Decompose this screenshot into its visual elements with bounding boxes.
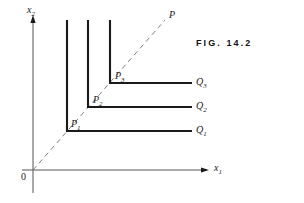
point-label-p3: P3	[115, 71, 125, 84]
origin-label: 0	[21, 172, 26, 182]
figure-14-2: x2 x1 0 P P1 P2 P3 Q1 Q2 Q3 FIG. 14.2	[0, 0, 304, 203]
endpoint-label-q3: Q3	[196, 77, 207, 90]
axis-label-x2: x2	[27, 5, 35, 18]
endpoint-label-q2: Q2	[196, 101, 207, 114]
isoquant-path-2	[88, 20, 192, 107]
diagram-canvas	[0, 0, 304, 203]
axis-x1-arrowhead	[201, 167, 209, 172]
endpoint-label-q1: Q1	[196, 125, 207, 138]
figure-caption: FIG. 14.2	[196, 38, 252, 48]
axis-label-x1: x1	[214, 163, 222, 176]
isoquant-path-1	[67, 20, 192, 131]
ray-label-P: P	[169, 10, 175, 20]
point-label-p2: P2	[93, 95, 103, 108]
point-label-p1: P1	[71, 119, 81, 132]
